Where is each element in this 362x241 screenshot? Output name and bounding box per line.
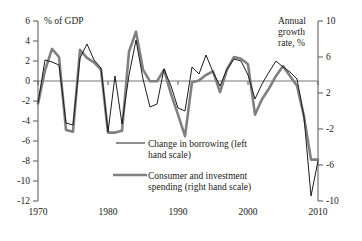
right-axis-ticks (318, 21, 323, 201)
left-tick-label: 0 (25, 76, 30, 86)
right-axis-caption-line-1: Annual (278, 16, 306, 26)
chart-container: 6420-2-4-6-8-10-12 1062-2-6-10 197019801… (0, 0, 362, 241)
right-axis-tick-labels: 1062-2-6-10 (326, 16, 339, 206)
left-tick-label: -8 (22, 156, 30, 166)
left-tick-label: -10 (17, 176, 30, 186)
right-axis-caption-line-2: growth (278, 27, 305, 37)
left-tick-label: 2 (25, 56, 30, 66)
x-axis-tick-labels: 19701980199020002010 (29, 207, 328, 217)
legend-item-consumer-investment-spending: Consumer and investment spending (right … (113, 171, 251, 193)
left-tick-label: 4 (25, 36, 30, 46)
left-axis: 6420-2-4-6-8-10-12 (17, 16, 38, 206)
left-tick-label: 6 (25, 16, 30, 26)
left-tick-label: -12 (17, 196, 30, 206)
left-tick-label: -4 (22, 116, 30, 126)
legend-label-borrowing-line-2: hand scale) (148, 150, 191, 161)
right-axis-caption: Annual growth rate, % (278, 16, 306, 48)
right-tick-label: 2 (326, 88, 331, 98)
right-tick-label: 6 (326, 52, 331, 62)
right-axis: 1062-2-6-10 (318, 16, 339, 206)
legend-item-change-in-borrowing: Change in borrowing (left hand scale) (116, 139, 247, 161)
x-tick-label: 2010 (309, 207, 328, 217)
x-tick-label: 1980 (99, 207, 118, 217)
legend-label-borrowing-line-1: Change in borrowing (left (148, 139, 247, 150)
chart-legend: Change in borrowing (left hand scale) Co… (113, 139, 251, 193)
legend-label-spending-line-2: spending (right hand scale) (148, 182, 251, 193)
right-axis-caption-line-3: rate, % (278, 38, 305, 48)
x-axis-ticks (38, 81, 318, 85)
x-tick-label: 1990 (169, 207, 188, 217)
right-tick-label: -2 (326, 124, 334, 134)
left-tick-label: -6 (22, 136, 30, 146)
left-axis-ticks (33, 21, 38, 201)
left-tick-label: -2 (22, 96, 30, 106)
right-tick-label: 10 (326, 16, 336, 26)
left-axis-tick-labels: 6420-2-4-6-8-10-12 (17, 16, 30, 206)
x-tick-label: 1970 (29, 207, 48, 217)
x-tick-label: 2000 (239, 207, 258, 217)
dual-axis-line-chart: 6420-2-4-6-8-10-12 1062-2-6-10 197019801… (0, 0, 362, 241)
legend-label-spending-line-1: Consumer and investment (148, 171, 248, 181)
right-tick-label: -10 (326, 196, 339, 206)
left-axis-caption: % of GDP (44, 16, 84, 26)
right-tick-label: -6 (326, 160, 334, 170)
